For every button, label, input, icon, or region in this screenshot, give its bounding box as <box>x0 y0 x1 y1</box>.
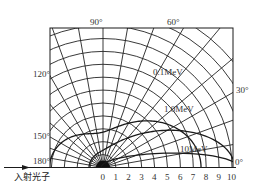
angle-label-120: 120° <box>33 69 51 79</box>
radial-tick-label: 2 <box>126 172 131 182</box>
radial-tick-label: 0 <box>101 172 106 182</box>
radial-tick-label: 10 <box>227 172 237 182</box>
polar-diagram: 90° 60° 120° 30° 150° 180° 0° 0.1MeV 1.0… <box>0 0 257 194</box>
grid-radial-line <box>103 0 257 167</box>
radial-tick-label: 7 <box>191 172 196 182</box>
radial-tick-label: 4 <box>152 172 157 182</box>
angle-label-150: 150° <box>33 131 51 141</box>
curve-label-1.0mev: 1.0MeV <box>164 104 194 114</box>
grid-radial-line <box>103 0 257 168</box>
angle-label-60: 60° <box>167 17 180 27</box>
incident-arrow-icon <box>22 165 30 170</box>
curve-label-0.1mev: 0.1MeV <box>153 67 183 77</box>
angle-label-30: 30° <box>236 85 249 95</box>
radial-tick-label: 8 <box>204 172 209 182</box>
grid-radial-line <box>0 0 103 167</box>
curve-label-10mev: 10MeV <box>180 144 208 154</box>
radial-tick-label: 9 <box>217 172 222 182</box>
grid-radial-line <box>0 38 103 168</box>
radial-tick-label: 5 <box>165 172 170 182</box>
radial-tick-labels: 012345678910 <box>101 172 237 182</box>
grid-radial-line <box>0 0 103 167</box>
radial-tick-label: 1 <box>113 172 118 182</box>
grid-circle <box>0 26 245 194</box>
grid-radial-line <box>0 0 103 168</box>
radial-tick-label: 3 <box>139 172 144 182</box>
radial-tick-label: 6 <box>178 172 183 182</box>
incident-photon-label: 入射光子 <box>14 171 50 182</box>
angle-label-90: 90° <box>90 17 103 27</box>
angle-label-180: 180° <box>33 156 51 166</box>
curve-1_0mev <box>89 130 235 167</box>
angle-label-0: 0° <box>235 157 244 167</box>
